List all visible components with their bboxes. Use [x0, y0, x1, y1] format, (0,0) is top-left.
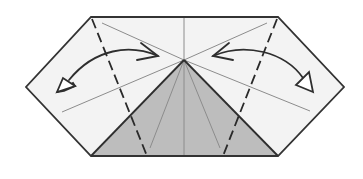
- origami-diagram: Origami fold step: hexagon with flaps fo…: [0, 0, 363, 179]
